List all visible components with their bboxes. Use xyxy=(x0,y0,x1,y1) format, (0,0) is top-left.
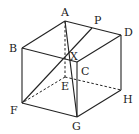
label-b: B xyxy=(9,42,17,55)
label-h: H xyxy=(123,93,133,106)
edge-ad xyxy=(65,21,121,35)
cube-diagram: A P D B X C E H F G xyxy=(0,0,139,134)
label-x: X xyxy=(70,50,78,63)
label-f: F xyxy=(10,104,18,117)
label-d: D xyxy=(124,26,133,39)
edge-ab xyxy=(22,21,65,48)
label-e: E xyxy=(61,80,69,93)
label-g: G xyxy=(72,120,81,133)
label-p: P xyxy=(94,14,102,27)
edge-fg xyxy=(22,103,77,117)
label-c: C xyxy=(81,65,89,78)
label-a: A xyxy=(60,6,70,19)
segment-ag xyxy=(65,21,77,117)
edge-gh xyxy=(77,90,121,117)
edge-cd xyxy=(77,35,121,62)
hidden-edge-ef xyxy=(22,77,65,103)
